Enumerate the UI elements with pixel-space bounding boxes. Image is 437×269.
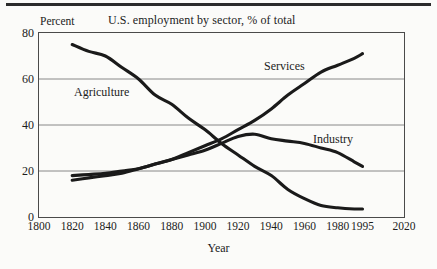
plot-area <box>38 32 405 218</box>
x-tick-label: 1880 <box>160 221 183 233</box>
chart-figure: U.S. employment by sector, % of total Pe… <box>0 0 437 269</box>
series-label-services: Services <box>264 60 305 72</box>
x-tick-label: 1860 <box>127 221 150 233</box>
x-tick-label: 1940 <box>260 221 283 233</box>
series-line-services <box>72 54 362 181</box>
x-tick-label: 1960 <box>293 221 316 233</box>
y-tick-label: 40 <box>22 119 34 131</box>
y-tick-label: 20 <box>22 165 34 177</box>
y-tick-label: 60 <box>22 73 34 85</box>
series-line-agriculture <box>72 45 362 210</box>
x-tick-label: 1840 <box>94 221 117 233</box>
x-tick-label: 1800 <box>28 221 51 233</box>
x-tick-label: 2020 <box>393 221 416 233</box>
series-label-agriculture: Agriculture <box>74 86 129 98</box>
x-tick-label: 1820 <box>61 221 84 233</box>
x-axis-title: Year <box>0 241 437 256</box>
series-lines <box>72 45 362 210</box>
x-tick-label: 1920 <box>227 221 250 233</box>
series-label-industry: Industry <box>313 133 353 145</box>
plot-svg <box>39 33 404 217</box>
x-tick-label: 1900 <box>193 221 216 233</box>
y-axis-caption: Percent <box>40 15 74 27</box>
x-tick-label: 1995 <box>351 221 374 233</box>
figure-top-rule <box>6 3 431 6</box>
y-tick-label: 80 <box>22 27 34 39</box>
x-tick-label: 1980 <box>326 221 349 233</box>
x-axis-tick-labels: 1800182018401860188019001920194019601980… <box>0 221 437 237</box>
chart-title: U.S. employment by sector, % of total <box>108 13 296 28</box>
y-axis-tick-labels: 020406080 <box>0 32 34 218</box>
